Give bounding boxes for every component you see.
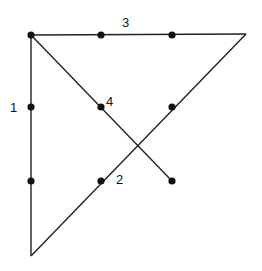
dot	[97, 103, 104, 110]
dot	[168, 103, 175, 110]
line-label-2: 2	[116, 172, 123, 187]
nine-dots-diagram: 1234	[0, 0, 262, 271]
line-segment-3	[31, 34, 246, 35]
dot	[27, 31, 34, 38]
dot	[168, 31, 175, 38]
line-label-4: 4	[106, 94, 113, 109]
line-segment-2	[31, 34, 246, 256]
dot	[27, 177, 34, 184]
dot	[97, 31, 104, 38]
line-label-1: 1	[10, 100, 17, 115]
line-label-3: 3	[122, 15, 129, 30]
dot	[97, 177, 104, 184]
dot	[168, 177, 175, 184]
dot	[27, 103, 34, 110]
